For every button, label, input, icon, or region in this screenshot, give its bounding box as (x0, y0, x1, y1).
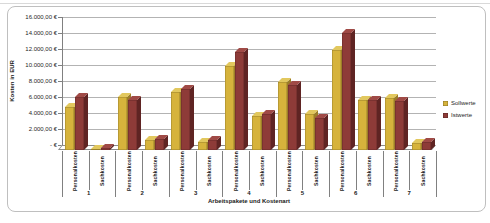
legend-label-sollwerte: Sollwerte (451, 100, 476, 107)
bar-istwerte[interactable] (128, 100, 137, 150)
bar-front-face (395, 101, 404, 150)
bar-front-face (225, 66, 234, 150)
bar-istwerte[interactable] (208, 140, 217, 150)
legend: Sollwerte Istwerte (443, 100, 489, 124)
gridline (62, 33, 436, 34)
sollwerte-swatch-icon (443, 101, 448, 106)
bar-istwerte[interactable] (235, 52, 244, 150)
bar-front-face (332, 50, 341, 150)
bar-sollwerte[interactable] (358, 100, 367, 150)
bar-front-face (145, 140, 154, 150)
bar-side-face (84, 93, 88, 150)
bar-side-face (297, 81, 301, 150)
x-category-label: Personalkosten (222, 152, 249, 189)
x-axis-title: Arbeitspakete und Kostenart (62, 198, 436, 204)
bar-sollwerte[interactable] (385, 98, 394, 150)
bar-front-face (315, 118, 324, 150)
bar-side-face (351, 29, 355, 150)
bar-sollwerte[interactable] (412, 143, 421, 150)
bar-front-face (288, 85, 297, 150)
bar-sollwerte[interactable] (278, 82, 287, 150)
bar-front-face (385, 98, 394, 150)
bar-front-face (155, 139, 164, 150)
bar-sollwerte[interactable] (171, 92, 180, 150)
bar-istwerte[interactable] (155, 139, 164, 150)
x-category-label: Personalkosten (329, 152, 356, 189)
bar-side-face (190, 85, 194, 150)
bar-istwerte[interactable] (288, 85, 297, 150)
bar-sollwerte[interactable] (198, 142, 207, 150)
bar-sollwerte[interactable] (225, 66, 234, 150)
bar-front-face (278, 82, 287, 150)
gridline (62, 17, 436, 18)
bar-front-face (171, 92, 180, 150)
bar-front-face (342, 33, 351, 150)
bar-sollwerte[interactable] (118, 97, 127, 150)
x-category-label: Sachkosten (409, 152, 436, 189)
legend-label-istwerte: Istwerte (451, 112, 472, 119)
bar-side-face (324, 114, 328, 150)
bar-sollwerte[interactable] (332, 50, 341, 150)
bar-side-face (244, 48, 248, 150)
bar-front-face (118, 97, 127, 150)
chart-canvas: - €2.000,00 €4.000,00 €6.000,00 €8.000,0… (0, 0, 490, 223)
x-category-label: Personalkosten (62, 152, 89, 189)
bar-front-face (422, 142, 431, 150)
x-category-label: Personalkosten (169, 152, 196, 189)
gridline (62, 65, 436, 66)
bar-front-face (181, 89, 190, 150)
x-category-label: Personalkosten (276, 152, 303, 189)
bar-front-face (91, 149, 100, 150)
bar-istwerte[interactable] (368, 100, 377, 150)
x-group-label: 5 (276, 190, 329, 197)
x-category-label: Sachkosten (196, 152, 223, 189)
bar-front-face (368, 100, 377, 150)
bar-sollwerte[interactable] (305, 114, 314, 150)
x-category-label: Sachkosten (302, 152, 329, 189)
bar-istwerte[interactable] (101, 148, 110, 150)
bar-front-face (75, 97, 84, 150)
istwerte-swatch-icon (443, 113, 448, 118)
bar-front-face (262, 114, 271, 150)
bar-istwerte[interactable] (315, 118, 324, 150)
bar-istwerte[interactable] (181, 89, 190, 150)
y-axis-title: Kosten in EUR (6, 17, 18, 145)
x-group-label: 4 (222, 190, 275, 197)
legend-item-istwerte[interactable]: Istwerte (443, 112, 489, 119)
gridline (62, 49, 436, 50)
bar-sollwerte[interactable] (65, 107, 74, 150)
plot-area: - €2.000,00 €4.000,00 €6.000,00 €8.000,0… (0, 0, 490, 223)
x-group-label: 1 (62, 190, 115, 197)
bar-sollwerte[interactable] (252, 116, 261, 150)
bar-istwerte[interactable] (395, 101, 404, 150)
x-group-label: 2 (115, 190, 168, 197)
bar-side-face (137, 96, 141, 150)
gridline (62, 81, 436, 82)
bar-front-face (198, 142, 207, 150)
bar-side-face (377, 96, 381, 150)
bar-istwerte[interactable] (342, 33, 351, 150)
bar-front-face (65, 107, 74, 150)
x-group-label: 6 (329, 190, 382, 197)
bar-front-face (235, 52, 244, 150)
x-category-label: Personalkosten (115, 152, 142, 189)
x-category-label: Personalkosten (383, 152, 410, 189)
bar-sollwerte[interactable] (145, 140, 154, 150)
bar-istwerte[interactable] (262, 114, 271, 150)
bar-front-face (305, 114, 314, 150)
bar-front-face (101, 148, 110, 150)
bar-front-face (128, 100, 137, 150)
x-category-label: Sachkosten (249, 152, 276, 189)
legend-item-sollwerte[interactable]: Sollwerte (443, 100, 489, 107)
x-group-label: 7 (383, 190, 436, 197)
bar-front-face (252, 116, 261, 150)
x-category-label: Sachkosten (142, 152, 169, 189)
bar-side-face (404, 97, 408, 150)
bar-sollwerte[interactable] (91, 149, 100, 150)
bar-istwerte[interactable] (75, 97, 84, 150)
bar-front-face (358, 100, 367, 150)
bar-side-face (271, 110, 275, 150)
x-category-label: Sachkosten (89, 152, 116, 189)
bar-front-face (412, 143, 421, 150)
bar-istwerte[interactable] (422, 142, 431, 150)
